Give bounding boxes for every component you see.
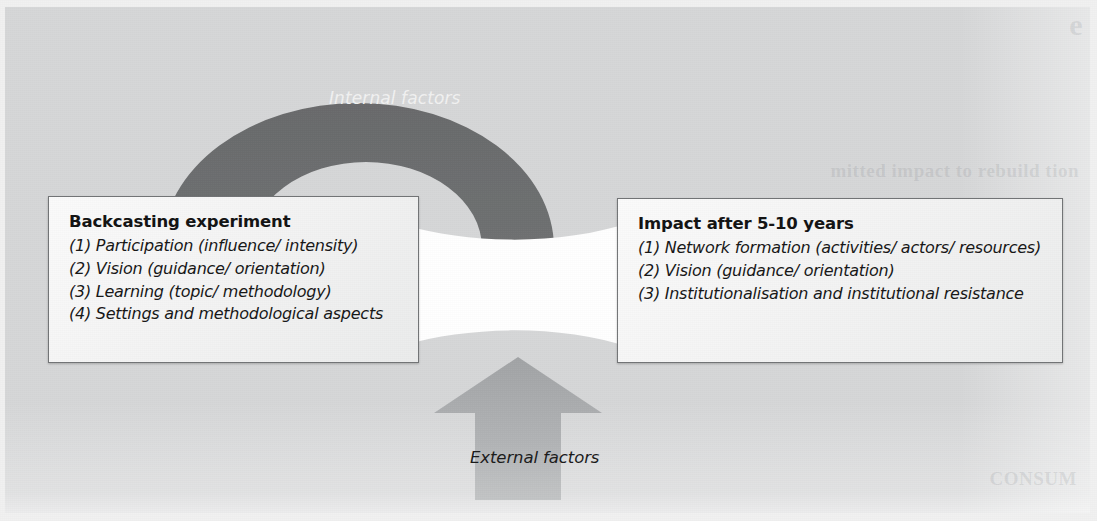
backcasting-experiment-box[interactable]: Backcasting experiment (1) Participation… <box>48 196 419 363</box>
impact-box-title: Impact after 5-10 years <box>638 213 1050 235</box>
backcasting-experiment-title: Backcasting experiment <box>69 211 406 233</box>
external-factors-arrow <box>434 357 602 500</box>
backcasting-item-3: (3) Learning (topic/ methodology) <box>69 281 406 304</box>
impact-item-1: (1) Network formation (activities/ actor… <box>638 237 1050 260</box>
backcasting-experiment-content: Backcasting experiment (1) Participation… <box>49 197 418 336</box>
impact-after-5-10-years-box[interactable]: Impact after 5-10 years (1) Network form… <box>617 198 1063 363</box>
backcasting-item-2: (2) Vision (guidance/ orientation) <box>69 258 406 281</box>
backcasting-item-4: (4) Settings and methodological aspects <box>69 303 406 326</box>
diagram-canvas: e mitted impact to rebuild tion CONSUM <box>0 0 1097 521</box>
impact-box-content: Impact after 5-10 years (1) Network form… <box>618 199 1062 315</box>
impact-item-3: (3) Institutionalisation and institution… <box>638 283 1050 306</box>
connector-band <box>404 222 632 348</box>
impact-item-2: (2) Vision (guidance/ orientation) <box>638 260 1050 283</box>
backcasting-item-1: (1) Participation (influence/ intensity) <box>69 235 406 258</box>
